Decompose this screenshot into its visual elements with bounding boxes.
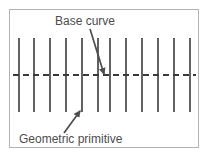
base-curve-label: Base curve [55,15,115,28]
geometric-primitive-label: Geometric primitive [19,133,122,146]
geometric-primitive-arrow [64,111,80,133]
figure-container: Base curve Geometric primitive [0,0,210,159]
base-curve-arrow [90,29,104,74]
